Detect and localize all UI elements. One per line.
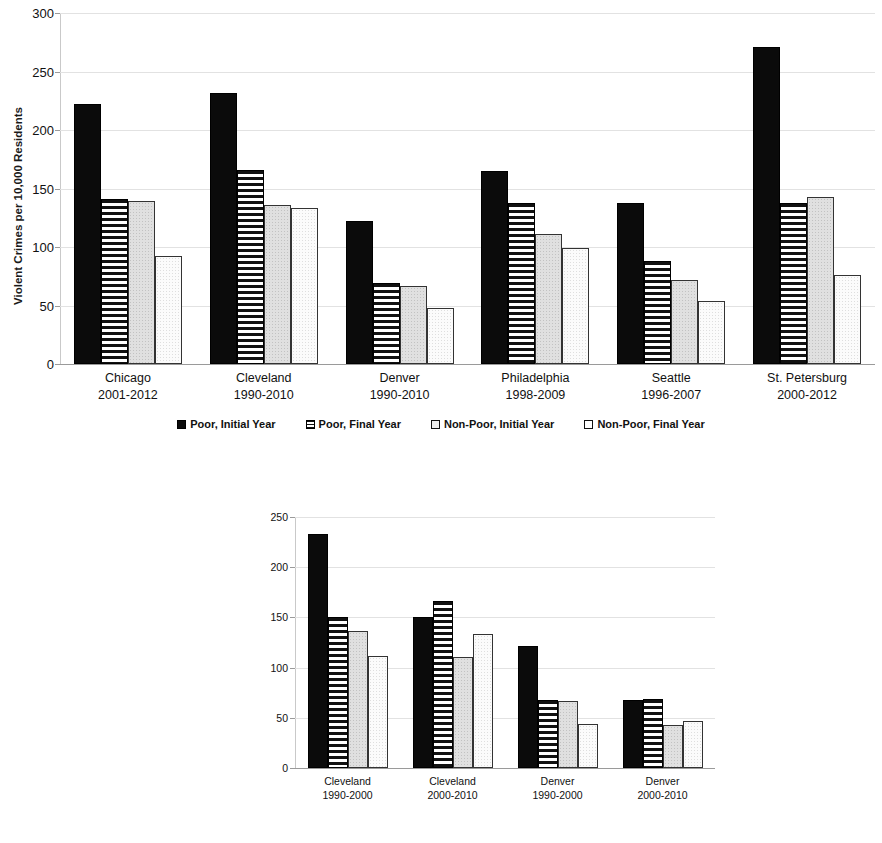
y-tick-label: 200 bbox=[32, 124, 54, 137]
x-axis-category-label: Chicago2001-2012 bbox=[98, 370, 158, 404]
bar-nonpoor-initial bbox=[663, 725, 683, 768]
bar-group: Seattle1996-2007 bbox=[603, 13, 739, 364]
x-axis-category-label: St. Petersburg2000-2012 bbox=[767, 370, 847, 404]
bar-poor-final bbox=[644, 261, 671, 364]
bar-poor-initial bbox=[346, 221, 373, 364]
bar-nonpoor-initial bbox=[348, 631, 368, 768]
legend-swatch-poor-initial-icon bbox=[177, 420, 186, 429]
plot-area: Cleveland1990-2000Cleveland2000-2010Denv… bbox=[295, 517, 715, 768]
bar-poor-initial bbox=[74, 104, 101, 364]
category-period: 1990-2000 bbox=[322, 788, 372, 802]
bar-nonpoor-final bbox=[578, 724, 598, 768]
chart-top: Violent Crimes per 10,000 Residents 0501… bbox=[0, 0, 882, 445]
bar-poor-final bbox=[538, 700, 558, 768]
bar-nonpoor-initial bbox=[558, 701, 578, 768]
x-axis-category-label: Denver1990-2010 bbox=[370, 370, 430, 404]
x-axis-category-label: Denver1990-2000 bbox=[532, 774, 582, 802]
bar-poor-final bbox=[780, 203, 807, 364]
bar-nonpoor-final bbox=[291, 208, 318, 364]
bar-nonpoor-final bbox=[834, 275, 861, 364]
category-city: Philadelphia bbox=[501, 370, 569, 387]
bar-group: Philadelphia1998-2009 bbox=[468, 13, 604, 364]
bar-nonpoor-initial bbox=[400, 286, 427, 364]
category-city: Cleveland bbox=[322, 774, 372, 788]
category-period: 1990-2010 bbox=[370, 387, 430, 404]
y-axis-tick-labels: 050100150200250 bbox=[252, 517, 288, 768]
bar-poor-final bbox=[643, 699, 663, 768]
bar-group: Chicago2001-2012 bbox=[60, 13, 196, 364]
bar-group: St. Petersburg2000-2012 bbox=[739, 13, 875, 364]
bars-container bbox=[400, 517, 505, 768]
bar-poor-final bbox=[373, 283, 400, 364]
bar-poor-initial bbox=[210, 93, 237, 364]
category-city: Denver bbox=[370, 370, 430, 387]
legend-label: Poor, Final Year bbox=[319, 418, 401, 430]
bars-container bbox=[468, 13, 604, 364]
bars-container bbox=[295, 517, 400, 768]
bar-nonpoor-final bbox=[683, 721, 703, 768]
x-axis-line bbox=[60, 364, 875, 365]
bar-poor-initial bbox=[308, 534, 328, 768]
bar-nonpoor-initial bbox=[807, 197, 834, 364]
bar-group: Denver2000-2010 bbox=[610, 517, 715, 768]
x-axis-category-label: Cleveland1990-2010 bbox=[234, 370, 294, 404]
bar-nonpoor-initial bbox=[264, 205, 291, 364]
y-tick-label: 250 bbox=[270, 512, 288, 523]
plot-area: Chicago2001-2012Cleveland1990-2010Denver… bbox=[60, 13, 875, 364]
category-city: Denver bbox=[532, 774, 582, 788]
bars-container bbox=[332, 13, 468, 364]
legend-label: Non-Poor, Final Year bbox=[597, 418, 704, 430]
x-axis-category-label: Seattle1996-2007 bbox=[641, 370, 701, 404]
category-city: Cleveland bbox=[427, 774, 477, 788]
bar-nonpoor-final bbox=[698, 301, 725, 364]
y-tick-label: 50 bbox=[40, 299, 54, 312]
bars-container bbox=[739, 13, 875, 364]
y-tick-label: 0 bbox=[47, 358, 54, 371]
legend-label: Poor, Initial Year bbox=[190, 418, 275, 430]
bar-poor-initial bbox=[413, 617, 433, 768]
chart-legend: Poor, Initial YearPoor, Final YearNon-Po… bbox=[0, 418, 882, 430]
bar-nonpoor-final bbox=[155, 256, 182, 364]
y-tick-label: 150 bbox=[32, 182, 54, 195]
legend-item: Poor, Final Year bbox=[306, 418, 401, 430]
bar-poor-final bbox=[101, 199, 128, 364]
y-tick-label: 50 bbox=[276, 713, 288, 724]
bar-poor-initial bbox=[753, 47, 780, 364]
category-period: 1998-2009 bbox=[501, 387, 569, 404]
legend-swatch-nonpoor-initial-icon bbox=[431, 420, 440, 429]
bar-nonpoor-initial bbox=[535, 234, 562, 364]
bars-container bbox=[505, 517, 610, 768]
category-city: Denver bbox=[637, 774, 687, 788]
category-period: 1990-2000 bbox=[532, 788, 582, 802]
bar-nonpoor-final bbox=[368, 656, 388, 768]
bar-poor-final bbox=[328, 617, 348, 768]
bar-group: Cleveland1990-2000 bbox=[295, 517, 400, 768]
x-axis-category-label: Philadelphia1998-2009 bbox=[501, 370, 569, 404]
bar-poor-initial bbox=[518, 646, 538, 768]
bars-container bbox=[196, 13, 332, 364]
y-tick-label: 150 bbox=[270, 612, 288, 623]
bars-container bbox=[60, 13, 196, 364]
x-axis-category-label: Cleveland2000-2010 bbox=[427, 774, 477, 802]
y-tick-label: 250 bbox=[32, 65, 54, 78]
x-axis-category-label: Denver2000-2010 bbox=[637, 774, 687, 802]
bar-nonpoor-initial bbox=[128, 201, 155, 364]
legend-item: Poor, Initial Year bbox=[177, 418, 275, 430]
category-city: Cleveland bbox=[234, 370, 294, 387]
y-axis-tick-labels: 050100150200250300 bbox=[18, 13, 54, 364]
bar-nonpoor-final bbox=[427, 308, 454, 364]
category-period: 2001-2012 bbox=[98, 387, 158, 404]
legend-swatch-nonpoor-final-icon bbox=[584, 420, 593, 429]
bar-group: Denver1990-2010 bbox=[332, 13, 468, 364]
chart-bottom: Violent Crimes per 10,000 Residents 0501… bbox=[0, 498, 882, 843]
bar-poor-final bbox=[237, 170, 264, 364]
bar-poor-final bbox=[433, 601, 453, 768]
category-period: 1990-2010 bbox=[234, 387, 294, 404]
y-tick-label: 0 bbox=[282, 763, 288, 774]
legend-item: Non-Poor, Final Year bbox=[584, 418, 704, 430]
bars-container bbox=[610, 517, 715, 768]
bar-nonpoor-initial bbox=[453, 657, 473, 768]
legend-swatch-poor-final-icon bbox=[306, 420, 315, 429]
y-tick-label: 100 bbox=[32, 241, 54, 254]
category-period: 2000-2010 bbox=[637, 788, 687, 802]
